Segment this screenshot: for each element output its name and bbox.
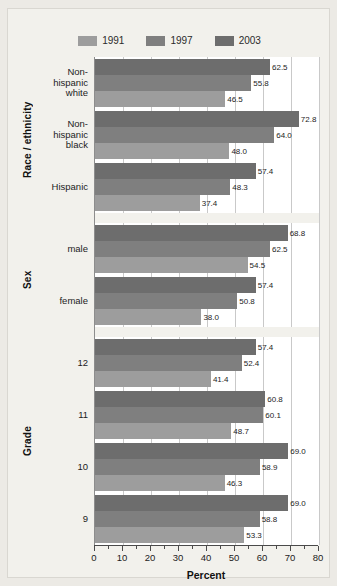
bar-2003: [95, 339, 256, 355]
bar-value-label: 52.4: [244, 359, 260, 368]
bar-1991: [95, 143, 229, 159]
legend-label-1991: 1991: [102, 36, 124, 46]
bar-value-label: 58.8: [262, 515, 278, 524]
bar-row: 58.8: [95, 511, 319, 527]
x-tick-45: [220, 546, 221, 549]
category-label-line: black: [66, 140, 88, 151]
bar-1997: [95, 355, 242, 371]
bar-row: 64.0: [95, 127, 319, 143]
bar-value-label: 46.3: [227, 479, 243, 488]
group-title-race-ethnicity: Race / ethnicity: [22, 57, 36, 223]
bar-value-label: 60.1: [265, 411, 281, 420]
x-tick-15: [136, 546, 137, 549]
bar-value-label: 72.8: [301, 115, 317, 124]
bar-1997: [95, 293, 237, 309]
bar-value-label: 60.8: [267, 395, 283, 404]
bar-row: 46.3: [95, 475, 319, 491]
bar-value-label: 62.5: [272, 245, 288, 254]
x-tick-70: [290, 546, 291, 551]
chart-figure: 199119972003 62.555.846.572.864.048.057.…: [0, 0, 337, 586]
category-label-line: 11: [78, 410, 88, 421]
bar-value-label: 69.0: [290, 447, 306, 456]
bar-2003: [95, 277, 256, 293]
bar-row: 69.0: [95, 495, 319, 511]
x-tick-50: [234, 546, 235, 551]
bar-row: 48.7: [95, 423, 319, 439]
category-label-line: female: [59, 296, 88, 307]
x-tick-80: [318, 546, 319, 551]
bar-value-label: 57.4: [258, 343, 274, 352]
x-tick-label-70: 70: [285, 553, 296, 563]
x-tick-label-60: 60: [257, 553, 268, 563]
bar-1991: [95, 257, 248, 273]
bar-value-label: 58.9: [262, 463, 278, 472]
x-axis-title: Percent: [94, 569, 318, 581]
bar-2003: [95, 59, 270, 75]
bar-2003: [95, 495, 288, 511]
plot-area: 62.555.846.572.864.048.057.448.337.468.8…: [94, 57, 319, 545]
bar-row: 57.4: [95, 163, 319, 179]
bar-1991: [95, 423, 231, 439]
legend-label-2003: 2003: [239, 36, 261, 46]
bar-1997: [95, 241, 270, 257]
group-separator: [95, 327, 319, 337]
x-tick-label-30: 30: [173, 553, 184, 563]
category-label-line: 12: [77, 358, 88, 369]
x-tick-75: [304, 546, 305, 549]
x-tick-label-50: 50: [229, 553, 240, 563]
bar-value-label: 57.4: [258, 167, 274, 176]
bar-1991: [95, 527, 244, 543]
bar-value-label: 68.8: [290, 229, 306, 238]
bar-row: 54.5: [95, 257, 319, 273]
x-tick-30: [178, 546, 179, 551]
x-tick-20: [150, 546, 151, 551]
bar-1991: [95, 91, 225, 107]
bar-row: 58.9: [95, 459, 319, 475]
bar-value-label: 69.0: [290, 499, 306, 508]
bar-value-label: 48.0: [231, 147, 247, 156]
bar-row: 69.0: [95, 443, 319, 459]
group-title-grade: Grade: [22, 337, 36, 545]
legend-swatch-1991: [78, 36, 97, 46]
x-tick-label-80: 80: [313, 553, 324, 563]
bar-value-label: 38.0: [203, 313, 219, 322]
bar-row: 53.3: [95, 527, 319, 543]
legend-item-1997: 1997: [146, 36, 192, 46]
x-tick-0: [94, 546, 95, 551]
bar-1997: [95, 75, 251, 91]
bar-value-label: 48.3: [232, 183, 248, 192]
x-tick-40: [206, 546, 207, 551]
bar-value-label: 41.4: [213, 375, 229, 384]
x-tick-35: [192, 546, 193, 549]
bar-row: 60.8: [95, 391, 319, 407]
category-label-line: white: [66, 88, 88, 99]
x-tick-5: [108, 546, 109, 549]
bar-1991: [95, 371, 211, 387]
legend-item-2003: 2003: [215, 36, 261, 46]
bar-row: 41.4: [95, 371, 319, 387]
bar-value-label: 46.5: [227, 95, 243, 104]
x-tick-65: [276, 546, 277, 549]
x-tick-label-10: 10: [117, 553, 128, 563]
bar-value-label: 55.8: [253, 79, 269, 88]
bar-2003: [95, 111, 299, 127]
bar-row: 48.0: [95, 143, 319, 159]
chart-paper: 199119972003 62.555.846.572.864.048.057.…: [7, 8, 330, 578]
group-separator: [95, 213, 319, 223]
category-label-line: 9: [83, 514, 88, 525]
bar-row: 62.5: [95, 241, 319, 257]
bar-row: 38.0: [95, 309, 319, 325]
legend-label-1997: 1997: [170, 36, 192, 46]
gridline-80: [319, 57, 320, 545]
bar-2003: [95, 391, 265, 407]
bar-row: 68.8: [95, 225, 319, 241]
x-tick-label-20: 20: [145, 553, 156, 563]
x-tick-label-40: 40: [201, 553, 212, 563]
bar-value-label: 48.7: [233, 427, 249, 436]
legend-item-1991: 1991: [78, 36, 124, 46]
group-title-sex: Sex: [22, 223, 36, 337]
bar-row: 62.5: [95, 59, 319, 75]
x-tick-10: [122, 546, 123, 551]
bar-value-label: 50.8: [239, 297, 255, 306]
category-label-line: male: [67, 244, 88, 255]
